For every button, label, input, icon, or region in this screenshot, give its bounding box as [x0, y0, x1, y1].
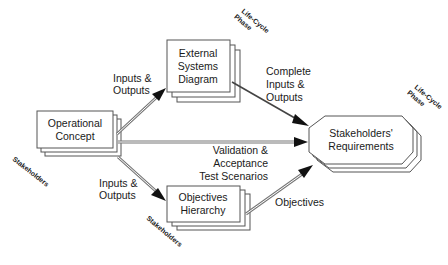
- svg-text:Complete: Complete: [266, 65, 311, 77]
- node-label-line2: Requirements: [328, 140, 393, 152]
- diagram-canvas: Operational Concept Stakeholders Externa…: [0, 0, 448, 265]
- operational-concept-node[interactable]: Operational Concept: [37, 111, 121, 156]
- objectives-hierarchy-node[interactable]: Objectives Hierarchy: [167, 186, 250, 230]
- svg-text:Outputs: Outputs: [99, 189, 136, 201]
- lifecycle-label-esd: Life-Cycle Phase: [233, 6, 271, 41]
- node-label-line1: Objectives: [178, 191, 227, 203]
- node-label-line3: Diagram: [178, 73, 218, 85]
- node-label-line2: Systems: [178, 60, 218, 72]
- svg-text:Outputs: Outputs: [113, 84, 150, 96]
- edge-label-oh-to-sr: Objectives: [275, 196, 324, 208]
- node-label-line2: Concept: [55, 130, 94, 142]
- arrowhead-icon: [292, 114, 309, 126]
- stakeholders-label-oc: Stakeholders: [11, 155, 50, 188]
- svg-text:Inputs &: Inputs &: [266, 78, 305, 90]
- edge-label-esd-to-sr: Complete Inputs & Outputs: [266, 65, 311, 103]
- svg-text:Inputs &: Inputs &: [113, 72, 152, 84]
- svg-text:Validation &: Validation &: [213, 144, 268, 156]
- lifecycle-label-sr: Life-Cycle Phase: [406, 82, 444, 117]
- node-label-line1: Operational: [48, 117, 102, 129]
- stakeholders-requirements-node[interactable]: Stakeholders' Requirements: [309, 116, 421, 172]
- node-label-line1: Stakeholders': [329, 127, 392, 139]
- svg-text:Test Scenarios: Test Scenarios: [199, 170, 268, 182]
- edge-label-oc-to-oh: Inputs & Outputs: [99, 177, 138, 201]
- svg-text:Outputs: Outputs: [266, 91, 303, 103]
- arrowhead-icon: [294, 137, 308, 147]
- svg-text:Objectives: Objectives: [275, 196, 324, 208]
- edge-label-oc-to-sr: Validation & Acceptance Test Scenarios: [199, 144, 268, 182]
- svg-text:Acceptance: Acceptance: [213, 157, 268, 169]
- edge-label-oc-to-esd: Inputs & Outputs: [113, 72, 152, 96]
- svg-text:Inputs &: Inputs &: [99, 177, 138, 189]
- node-label-line2: Hierarchy: [181, 204, 227, 216]
- node-label-line1: External: [179, 47, 218, 59]
- external-systems-diagram-node[interactable]: External Systems Diagram: [167, 40, 240, 102]
